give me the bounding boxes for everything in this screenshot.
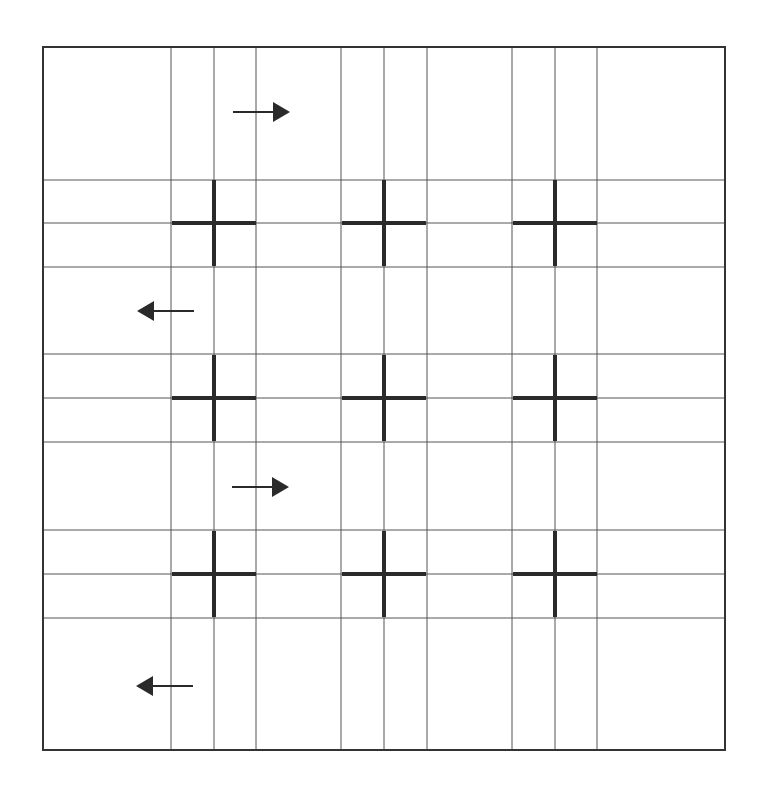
arrow-head (136, 676, 153, 696)
arrow-left-icon (136, 676, 193, 696)
cross-marker (513, 355, 597, 441)
arrow-head (273, 102, 290, 122)
cross-marker (342, 180, 426, 266)
arrow-right-icon (233, 102, 290, 122)
cross-marker (513, 531, 597, 617)
arrow-head (272, 477, 289, 497)
arrow-right-icon (232, 477, 289, 497)
cross-marker (513, 180, 597, 266)
cross-marker (342, 355, 426, 441)
cross-marker (172, 355, 256, 441)
cross-marker (172, 180, 256, 266)
arrow-left-icon (137, 301, 194, 321)
arrow-head (137, 301, 154, 321)
grid-diagram (0, 0, 767, 792)
cross-marker (172, 531, 256, 617)
cross-marker (342, 531, 426, 617)
crosses (172, 180, 597, 617)
